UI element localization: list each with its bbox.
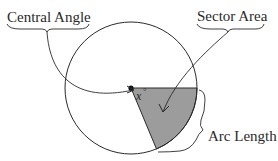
central-angle-label: Central Angle [7,9,91,25]
arc-length-label: Arc Length [208,128,277,144]
sector-area-label: Sector Area [197,8,268,24]
sector-diagram: Central Angle x ° Sector Area Arc Length [0,0,278,161]
central-angle-brace [7,24,89,32]
diagram-canvas: Central Angle x ° Sector Area Arc Length [0,0,278,161]
central-angle-leader [47,32,133,93]
sector-area-brace [197,24,264,32]
angle-label: x [135,89,142,103]
degree-symbol: ° [143,86,147,96]
